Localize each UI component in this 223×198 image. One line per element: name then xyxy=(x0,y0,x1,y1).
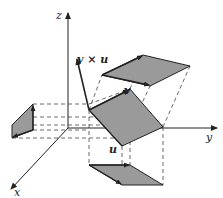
x-axis xyxy=(11,128,68,189)
y-axis-label: y xyxy=(205,131,213,144)
vector-v-label: v xyxy=(124,84,131,97)
projection-xz-plane xyxy=(12,104,33,138)
projection-xy-plane xyxy=(89,165,163,185)
cross-product-projection-diagram: z y x v × u v u xyxy=(0,0,223,198)
projection-yz-plane xyxy=(102,55,190,86)
cross-product-vector-arrow xyxy=(77,59,89,110)
vector-u-label: u xyxy=(109,143,117,156)
diagram-canvas: z y x v × u v u xyxy=(0,0,223,198)
x-axis-label: x xyxy=(14,186,21,198)
z-axis-label: z xyxy=(55,9,62,22)
parallelogram-original xyxy=(89,89,163,146)
cross-product-label: v × u xyxy=(77,53,108,66)
